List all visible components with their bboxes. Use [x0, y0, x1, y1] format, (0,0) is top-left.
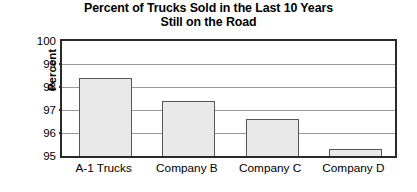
bar: [246, 119, 299, 156]
x-tick-label: Company B: [145, 161, 228, 176]
chart-title: Percent of Trucks Sold in the Last 10 Ye…: [0, 2, 417, 29]
y-tick-label: 99: [26, 58, 56, 70]
plot-area: [60, 39, 397, 158]
x-axis-tick-labels: A-1 TrucksCompany BCompany CCompany D: [60, 161, 397, 181]
y-axis-tick-labels: 1009998979695: [26, 0, 56, 192]
y-tick-label: 98: [26, 81, 56, 93]
y-tick-label: 96: [26, 127, 56, 139]
bars-group: [62, 41, 395, 156]
y-tick-label: 100: [26, 35, 56, 47]
chart-title-line-2: Still on the Road: [0, 16, 417, 30]
chart-title-line-1: Percent of Trucks Sold in the Last 10 Ye…: [0, 2, 417, 16]
y-tick-label: 95: [26, 150, 56, 162]
chart-screenshot: Percent of Trucks Sold in the Last 10 Ye…: [0, 0, 417, 192]
bar: [79, 78, 132, 156]
x-tick-label: Company C: [229, 161, 312, 176]
bar: [162, 101, 215, 156]
y-tick-label: 97: [26, 104, 56, 116]
x-tick-label: A-1 Trucks: [62, 161, 145, 176]
bar: [329, 149, 382, 156]
x-tick-label: Company D: [312, 161, 395, 176]
